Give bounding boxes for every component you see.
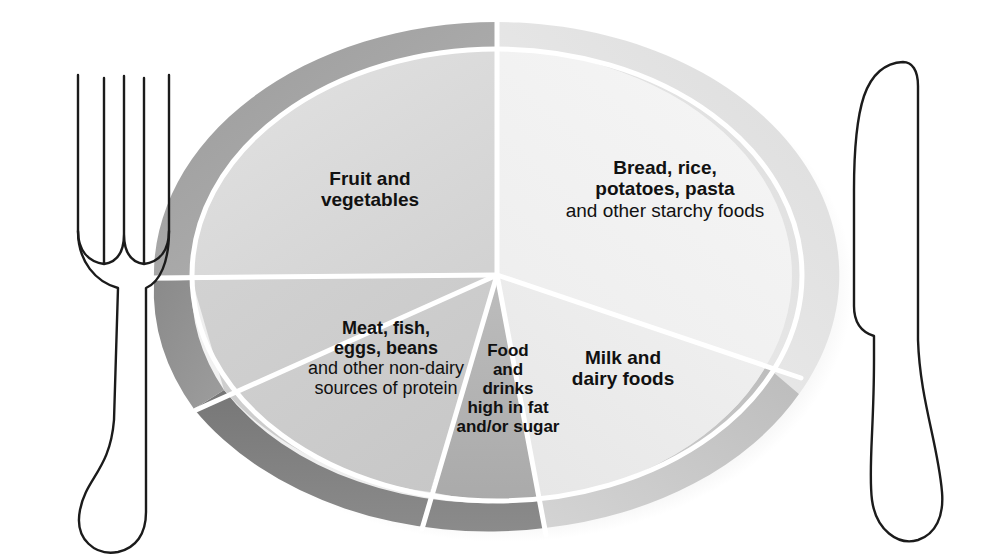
- eatwell-plate-figure: Bread, rice, potatoes, pasta and other s…: [0, 0, 986, 560]
- fork-icon: [78, 75, 169, 553]
- cutlery-layer: [0, 0, 986, 560]
- knife-icon: [854, 62, 942, 541]
